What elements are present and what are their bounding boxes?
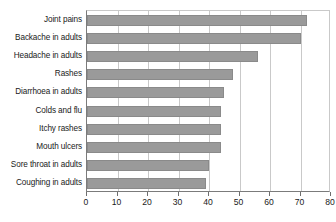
bar[interactable] bbox=[87, 15, 307, 26]
bar-slot bbox=[87, 47, 331, 65]
x-tick-label: 80 bbox=[325, 197, 335, 207]
x-tick-label: 60 bbox=[264, 197, 274, 207]
x-tick-mark bbox=[300, 192, 301, 196]
category-label: Colds and flu bbox=[0, 106, 82, 115]
bar[interactable] bbox=[87, 33, 301, 44]
x-tick-mark bbox=[330, 192, 331, 196]
plot-area bbox=[86, 10, 330, 192]
category-label: Backache in adults bbox=[0, 33, 82, 42]
bar[interactable] bbox=[87, 178, 206, 189]
bar-slot bbox=[87, 84, 331, 102]
bar[interactable] bbox=[87, 87, 224, 98]
bar-slot bbox=[87, 66, 331, 84]
x-tick-mark bbox=[208, 192, 209, 196]
category-label: Headache in adults bbox=[0, 51, 82, 60]
bar-series bbox=[87, 11, 329, 191]
bar-slot bbox=[87, 11, 331, 29]
x-tick-label: 50 bbox=[234, 197, 244, 207]
bar-slot bbox=[87, 157, 331, 175]
bar[interactable] bbox=[87, 106, 221, 117]
x-tick-label: 30 bbox=[173, 197, 183, 207]
bar-slot bbox=[87, 29, 331, 47]
bar-slot bbox=[87, 102, 331, 120]
category-axis-labels: Joint painsBackache in adultsHeadache in… bbox=[0, 10, 82, 192]
x-axis: 01020304050607080 bbox=[86, 192, 330, 220]
x-tick-mark bbox=[117, 192, 118, 196]
category-label: Sore throat in adults bbox=[0, 160, 82, 169]
category-label: Mouth ulcers bbox=[0, 142, 82, 151]
bar[interactable] bbox=[87, 51, 258, 62]
category-label: Joint pains bbox=[0, 15, 82, 24]
category-label: Diarrhoea in adults bbox=[0, 87, 82, 96]
category-label: Rashes bbox=[0, 69, 82, 78]
x-tick-label: 20 bbox=[142, 197, 152, 207]
category-label: Coughing in adults bbox=[0, 178, 82, 187]
x-tick-label: 10 bbox=[112, 197, 122, 207]
x-tick-label: 40 bbox=[203, 197, 213, 207]
x-tick-mark bbox=[239, 192, 240, 196]
category-label: Itchy rashes bbox=[0, 124, 82, 133]
bar-slot bbox=[87, 138, 331, 156]
x-tick-mark bbox=[178, 192, 179, 196]
x-tick-label: 0 bbox=[84, 197, 89, 207]
bar[interactable] bbox=[87, 142, 221, 153]
x-tick-mark bbox=[147, 192, 148, 196]
x-tick-label: 70 bbox=[295, 197, 305, 207]
bar-chart: Joint painsBackache in adultsHeadache in… bbox=[0, 0, 336, 222]
bar[interactable] bbox=[87, 69, 233, 80]
bar-slot bbox=[87, 175, 331, 193]
x-tick-mark bbox=[269, 192, 270, 196]
bar[interactable] bbox=[87, 160, 209, 171]
x-tick-mark bbox=[86, 192, 87, 196]
bar[interactable] bbox=[87, 124, 221, 135]
bar-slot bbox=[87, 120, 331, 138]
